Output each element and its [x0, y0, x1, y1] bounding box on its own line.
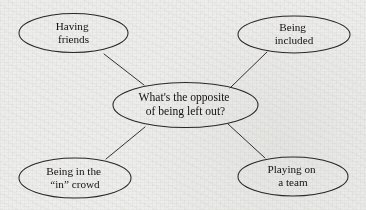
concept-web-diagram: Having friends Being included Being in t…: [0, 0, 366, 210]
node-being-included-line1: Being: [279, 21, 306, 33]
connector-center-to-having-friends: [104, 54, 144, 85]
node-having-friends-label: Having friends: [56, 19, 92, 44]
node-having-friends-line1: Having: [56, 19, 89, 31]
node-playing-on-a-team-label: Playing on a team: [268, 163, 319, 188]
diagram-canvas: Having friends Being included Being in t…: [0, 0, 366, 210]
node-being-in-the-in-crowd-line2: “in” crowd: [50, 177, 100, 189]
node-having-friends-line2: friends: [58, 32, 89, 44]
node-being-included-label: Being included: [275, 21, 314, 46]
connector-center-to-being-included: [230, 52, 267, 88]
node-being-included-line2: included: [275, 34, 314, 46]
node-being-included[interactable]: Being included: [238, 16, 350, 53]
node-being-in-the-in-crowd-line1: Being in the: [46, 164, 101, 176]
node-center-question-line1: What's the opposite: [139, 91, 230, 104]
node-center-question-line2: of being left out?: [146, 105, 226, 118]
node-center-question[interactable]: What's the opposite of being left out?: [113, 83, 258, 128]
node-being-in-the-in-crowd-label: Being in the “in” crowd: [46, 164, 103, 189]
node-center-question-label: What's the opposite of being left out?: [139, 91, 233, 118]
connector-center-to-in-crowd: [106, 127, 145, 159]
node-playing-on-a-team-line2: a team: [278, 176, 308, 188]
node-being-in-the-in-crowd[interactable]: Being in the “in” crowd: [19, 158, 131, 198]
node-having-friends[interactable]: Having friends: [19, 14, 128, 53]
node-playing-on-a-team[interactable]: Playing on a team: [238, 157, 348, 196]
connector-center-to-playing-on-team: [228, 124, 265, 158]
node-playing-on-a-team-line1: Playing on: [268, 163, 317, 175]
